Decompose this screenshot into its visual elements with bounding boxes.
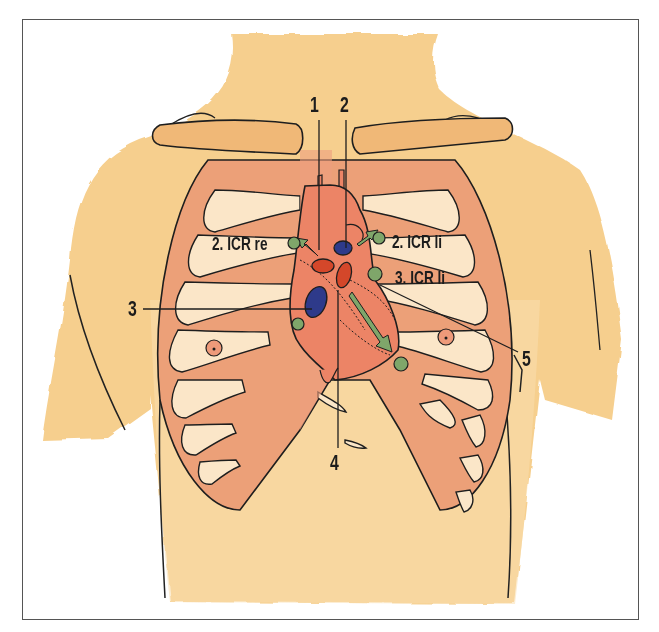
marker-pulmonary (373, 232, 385, 244)
marker-mitral (394, 357, 408, 371)
label-4: 4 (330, 452, 339, 474)
valve-pulmonary (312, 259, 334, 273)
label-3: 3 (128, 298, 137, 320)
marker-tricuspid (292, 318, 304, 330)
valve-mitral (334, 241, 352, 255)
label-icr2-left: 2. ICR li (392, 232, 442, 251)
thorax-illustration (0, 0, 659, 632)
marker-aortic (288, 237, 300, 249)
marker-erb (368, 267, 382, 281)
label-2: 2 (340, 94, 349, 116)
label-5: 5 (522, 348, 531, 370)
label-1: 1 (310, 94, 319, 116)
label-icr2-right: 2. ICR re (212, 234, 268, 253)
label-icr3-left: 3. ICR li (395, 268, 445, 287)
